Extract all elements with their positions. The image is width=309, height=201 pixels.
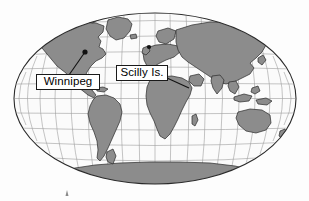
callout-scilly-is-label: Scilly Is. xyxy=(120,67,163,79)
marker-winnipeg[interactable] xyxy=(82,49,87,54)
callout-winnipeg-label: Winnipeg xyxy=(44,76,93,88)
land-iceland xyxy=(130,34,137,39)
callout-winnipeg[interactable]: Winnipeg xyxy=(36,74,100,90)
callout-scilly-is[interactable]: Scilly Is. xyxy=(116,65,168,81)
world-map-figure: Winnipeg Scilly Is. xyxy=(0,0,309,201)
marker-scilly[interactable] xyxy=(147,45,151,49)
world-map-graphic xyxy=(0,0,309,201)
